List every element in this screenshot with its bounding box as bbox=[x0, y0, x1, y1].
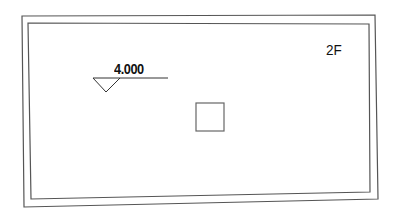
outer-wall-outline bbox=[22, 15, 378, 207]
floor-label: 2F bbox=[326, 41, 342, 58]
elevation-value: 4.000 bbox=[114, 60, 144, 77]
elevation-triangle-icon bbox=[93, 78, 120, 92]
inner-wall-outline bbox=[28, 23, 370, 199]
elevation-marker bbox=[93, 78, 168, 92]
floor-plan-drawing bbox=[0, 0, 410, 222]
column-square bbox=[196, 103, 224, 131]
